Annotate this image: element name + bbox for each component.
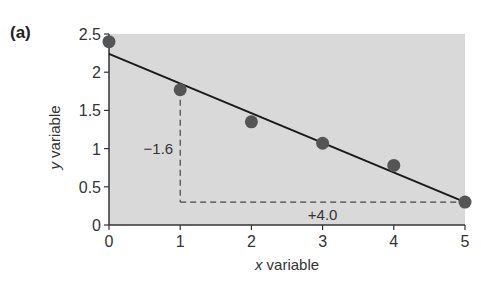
data-point [316, 137, 329, 150]
y-tick-label: 2 [92, 64, 101, 81]
y-tick-label: 1 [92, 141, 101, 158]
x-tick-label: 4 [389, 233, 398, 250]
y-tick-label: 0 [92, 217, 101, 234]
data-point [245, 115, 258, 128]
y-tick-label: 1.5 [79, 102, 101, 119]
data-point [459, 196, 472, 209]
data-point [387, 159, 400, 172]
x-tick-label: 3 [318, 233, 327, 250]
run-annotation: +4.0 [308, 206, 338, 223]
y-tick-label: 0.5 [79, 179, 101, 196]
x-tick-label: 2 [247, 233, 256, 250]
data-point [103, 35, 116, 48]
y-tick-label: 2.5 [79, 26, 101, 43]
x-tick-label: 0 [105, 233, 114, 250]
chart: 00.511.522.5012345x variabley variable−1… [0, 0, 481, 293]
y-axis-label: y variable [46, 105, 63, 170]
x-tick-label: 1 [176, 233, 185, 250]
rise-annotation: −1.6 [144, 140, 174, 157]
x-axis-label: x variable [254, 256, 319, 273]
plot-area [109, 34, 465, 225]
x-tick-label: 5 [461, 233, 470, 250]
data-point [174, 83, 187, 96]
